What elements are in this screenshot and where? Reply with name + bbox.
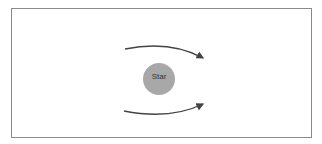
upper-path-arrow xyxy=(125,46,203,58)
lower-path-arrow xyxy=(124,104,203,114)
star-label: Star xyxy=(143,72,175,81)
